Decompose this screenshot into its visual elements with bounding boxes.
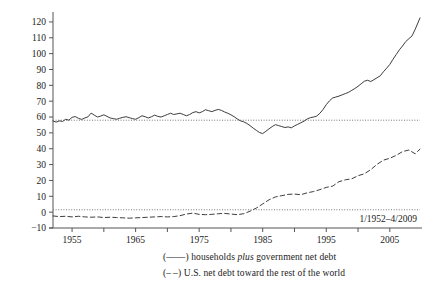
- y-tick-label: 110: [32, 33, 46, 43]
- y-tick-label: 80: [37, 81, 47, 91]
- y-tick-label: 30: [37, 160, 47, 170]
- y-tick-label: 0: [41, 208, 46, 218]
- y-tick-label: 10: [37, 192, 47, 202]
- legend-item-us-net-debt: (– –) U.S. net debt toward the rest of t…: [163, 268, 345, 278]
- series-line-households-plus-government: [53, 18, 420, 134]
- chart-svg: 1201101009080706050403020100−10195519651…: [0, 0, 432, 292]
- x-tick-label: 1985: [253, 235, 272, 245]
- series-line-us-net-debt: [53, 149, 420, 218]
- x-tick-label: 1995: [317, 235, 336, 245]
- y-tick-label: 60: [37, 112, 47, 122]
- y-tick-label: 50: [37, 128, 47, 138]
- legend-label-emphasis: plus: [237, 252, 253, 262]
- y-tick-label: 120: [32, 17, 47, 27]
- y-tick-label: 40: [37, 144, 47, 154]
- chart-figure: 1201101009080706050403020100−10195519651…: [0, 0, 432, 292]
- legend-label-text: U.S. net debt toward the rest of the wor…: [184, 268, 345, 278]
- legend-label-text-tail: government net debt: [254, 252, 336, 262]
- y-tick-label: 90: [37, 65, 47, 75]
- y-tick-label: 100: [32, 49, 47, 59]
- legend-dashed-marker: (– –): [163, 268, 184, 278]
- legend-solid-marker: (——): [163, 252, 191, 262]
- y-tick-label: 70: [37, 97, 47, 107]
- x-tick-label: 1965: [126, 235, 145, 245]
- x-tick-label: 1955: [63, 235, 82, 245]
- y-tick-label: −10: [31, 223, 46, 233]
- x-tick-label: 2005: [380, 235, 399, 245]
- legend-item-households-plus-government: (——) households plus government net debt: [163, 252, 336, 262]
- y-tick-label: 20: [37, 176, 47, 186]
- x-tick-label: 1975: [190, 235, 209, 245]
- legend-label-text: households: [191, 252, 237, 262]
- date-range-annotation: 1/1952–4/2009: [359, 214, 417, 224]
